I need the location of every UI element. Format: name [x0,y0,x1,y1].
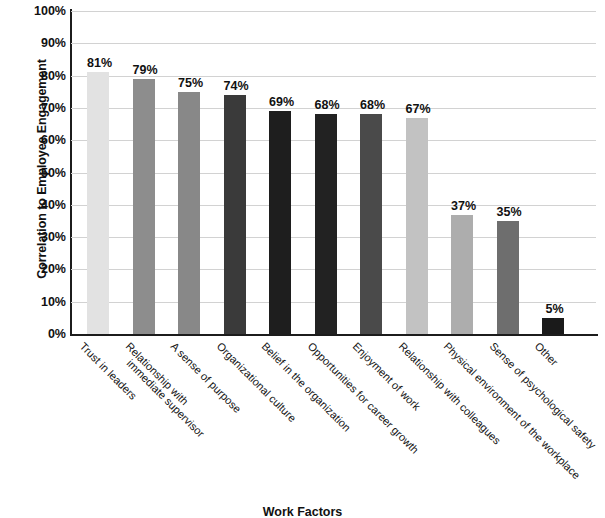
bar-group[interactable]: 69% [259,11,304,334]
y-axis-tick-labels: 100%90%80%70%60%50%40%30%20%10%0% [0,11,66,334]
bar-value-label: 75% [168,76,213,90]
bar-group[interactable]: 67% [396,11,441,334]
x-axis-category-label: Other [533,340,561,368]
bar-value-label: 5% [532,302,577,316]
y-axis-tick-label: 0% [4,327,66,341]
x-axis-title: Work Factors [0,505,605,518]
bar-group[interactable]: 68% [305,11,350,334]
plot-area: 81%79%75%74%69%68%68%67%37%35%5% [71,11,596,334]
bar-group[interactable]: 81% [77,11,122,334]
x-axis-category-label: Belief in the organization [260,340,354,434]
bar[interactable] [87,72,109,334]
bar[interactable] [360,114,382,334]
y-axis-tick-label: 90% [4,36,66,50]
bar[interactable] [542,318,564,334]
bar-value-label: 74% [214,79,259,93]
y-axis-tick-label: 40% [4,198,66,212]
bar[interactable] [224,95,246,334]
bar-value-label: 79% [123,63,168,77]
y-axis-tick-label: 30% [4,230,66,244]
bar[interactable] [178,92,200,334]
bar-chart: Correlation to Employee Engagement 100%9… [0,0,605,518]
y-axis-tick-label: 70% [4,101,66,115]
bar-group[interactable]: 74% [214,11,259,334]
bar[interactable] [497,221,519,334]
bar-group[interactable]: 75% [168,11,213,334]
bar-group[interactable]: 5% [532,11,577,334]
bar[interactable] [133,79,155,334]
y-axis-tick-label: 20% [4,262,66,276]
bar[interactable] [406,118,428,334]
x-axis-category-labels: Trust in leadersRelationship withimmedia… [71,340,601,500]
bar[interactable] [451,215,473,335]
y-axis-tick-label: 60% [4,133,66,147]
bar-value-label: 35% [487,205,532,219]
bar-value-label: 67% [396,102,441,116]
bar-group[interactable]: 79% [123,11,168,334]
bar-value-label: 69% [259,95,304,109]
bar-value-label: 37% [441,199,486,213]
bar-value-label: 81% [77,56,122,70]
bar-group[interactable]: 37% [441,11,486,334]
bar[interactable] [315,114,337,334]
bar-value-label: 68% [305,98,350,112]
bar-group[interactable]: 35% [487,11,532,334]
y-axis-tick-label: 10% [4,295,66,309]
x-axis-line [70,334,598,336]
bar-group[interactable]: 68% [350,11,395,334]
y-axis-tick-label: 80% [4,69,66,83]
bar-value-label: 68% [350,98,395,112]
y-axis-tick-label: 100% [4,4,66,18]
y-axis-tick-label: 50% [4,166,66,180]
bar[interactable] [269,111,291,334]
x-axis-category-label: Organizational culture [214,340,298,424]
